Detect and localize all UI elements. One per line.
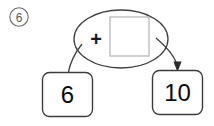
right-connector-line (156, 38, 177, 64)
problem-number-marker: 6 (10, 8, 28, 26)
worksheet-problem-canvas: 6 + 6 10 (0, 0, 214, 126)
problem-number-label: 6 (16, 11, 23, 25)
right-operand-value: 10 (164, 79, 191, 106)
part-whole-diagram: 6 + 6 10 (0, 0, 214, 126)
left-operand-value: 6 (61, 81, 74, 108)
answer-input-box[interactable] (110, 17, 149, 56)
left-connector-line (68, 44, 82, 74)
operator-symbol: + (90, 28, 102, 50)
